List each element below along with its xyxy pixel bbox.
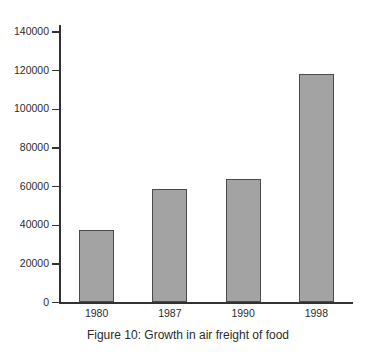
y-axis-tick-label: 100000: [14, 103, 49, 114]
y-axis-tick-mark: [52, 263, 59, 264]
chart-plot-area: 020000400006000080000100000120000140000 …: [0, 0, 376, 318]
y-axis-tick-mark: [52, 70, 59, 71]
y-axis-tick-label: 40000: [20, 219, 49, 230]
bar-1987: [152, 189, 187, 302]
y-axis-line: [59, 25, 61, 304]
y-axis-tick-mark: [52, 302, 59, 303]
figure-container: 020000400006000080000100000120000140000 …: [0, 0, 376, 355]
y-axis-tick-label: 120000: [14, 65, 49, 76]
x-axis-label-1987: 1987: [133, 307, 206, 319]
x-axis-label-1980: 1980: [60, 307, 133, 319]
y-axis-tick-mark: [52, 109, 59, 110]
x-axis-label-1998: 1998: [280, 307, 353, 319]
y-axis-tick-label: 0: [43, 297, 49, 308]
y-axis-tick-mark: [52, 147, 59, 148]
bar-1990: [226, 179, 261, 303]
y-axis-tick-mark: [52, 186, 59, 187]
figure-caption: Figure 10: Growth in air freight of food: [0, 328, 376, 342]
y-axis-tick-label: 20000: [20, 258, 49, 269]
y-axis-tick-mark: [52, 225, 59, 226]
y-axis-tick-label: 60000: [20, 181, 49, 192]
y-axis-tick-label: 140000: [14, 26, 49, 37]
bar-1980: [79, 230, 114, 302]
y-axis-tick-mark: [52, 31, 59, 32]
y-axis-tick-label: 80000: [20, 142, 49, 153]
bar-1998: [299, 74, 334, 303]
x-axis-label-1990: 1990: [207, 307, 280, 319]
